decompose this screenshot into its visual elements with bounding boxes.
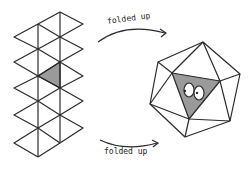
arrow-top [98,29,166,42]
icosahedron-net [14,12,83,157]
icosahedron-solid [150,42,240,137]
arrow-bottom [100,140,158,147]
label-folded-up-bottom: folded up [104,147,147,156]
diagram-canvas [0,0,251,169]
shaded-face [38,62,60,88]
